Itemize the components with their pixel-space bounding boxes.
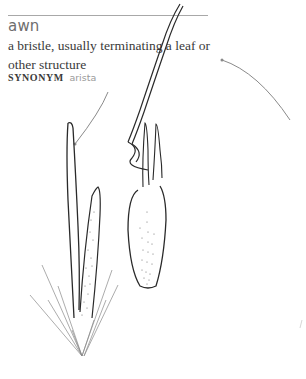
- right-spikelet-body-icon: [128, 186, 166, 288]
- left-glume-icon: [80, 187, 100, 318]
- callout-line-right: [222, 60, 290, 120]
- awn-illustration: [0, 0, 306, 379]
- right-spikelet-tips-icon: [143, 123, 162, 187]
- left-awn-blade-icon: [67, 123, 79, 318]
- faint-mark: [300, 320, 302, 328]
- right-spikelet-dots: [140, 212, 155, 285]
- callout-line-left: [75, 92, 108, 144]
